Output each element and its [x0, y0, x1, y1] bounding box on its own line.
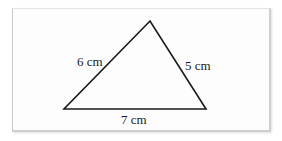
triangle-diagram: 6 cm 5 cm 7 cm: [0, 0, 282, 141]
base-length-label: 7 cm: [121, 112, 147, 127]
left-side-length-label: 6 cm: [77, 54, 103, 69]
right-side-length-label: 5 cm: [185, 58, 211, 73]
